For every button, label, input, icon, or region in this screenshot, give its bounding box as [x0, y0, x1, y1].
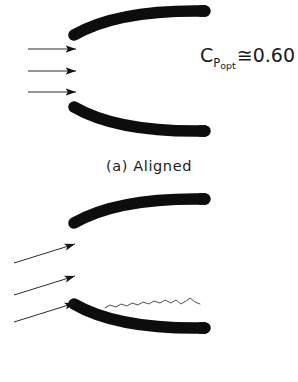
cp-subscript-opt: opt: [220, 60, 236, 71]
lower-blade-trailing-edge: [199, 125, 206, 137]
flow-arrow-2: [14, 276, 75, 295]
cp-value: 0.60: [253, 44, 295, 66]
lower-blade: [74, 107, 205, 131]
cp-subscript: Popt: [213, 56, 236, 70]
separation-wavy-line: [105, 298, 200, 308]
panel-mis-aligned-drawing: [0, 191, 298, 382]
cp-symbol: C: [200, 44, 213, 66]
panel-mis-aligned: CPopt<0.60 Separation (b) Mis-aligned: [0, 191, 298, 382]
cp-opt-label-aligned: CPopt≅0.60: [200, 46, 295, 70]
lower-blade-trailing-edge: [199, 322, 206, 334]
panel-aligned: CPopt≅0.60 (a) Aligned: [0, 0, 298, 191]
upper-blade: [74, 11, 205, 35]
upper-blade-trailing-edge: [199, 5, 206, 17]
diffuser-alignment-figure: CPopt≅0.60 (a) Aligned: [0, 0, 298, 382]
lower-blade: [74, 304, 205, 328]
flow-arrow-1: [14, 244, 75, 263]
flow-arrow-3: [14, 303, 75, 322]
upper-blade-trailing-edge: [199, 193, 206, 205]
cp-relation-symbol: ≅: [236, 44, 253, 66]
upper-blade: [74, 199, 205, 223]
caption-aligned: (a) Aligned: [0, 158, 298, 174]
